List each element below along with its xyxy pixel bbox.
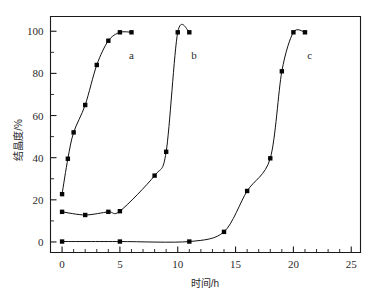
x-tick-label: 15 [230, 258, 242, 270]
y-tick-label: 0 [38, 236, 44, 248]
x-axis-ticks [62, 247, 351, 253]
x-axis-title: 时间/h [191, 277, 219, 289]
chart-plot-area: 0510152025 020406080100 abc 时间/h 结晶度/% [0, 0, 380, 301]
curve-b [62, 24, 189, 215]
data-point-b [83, 213, 87, 217]
y-tick-label: 80 [33, 67, 45, 79]
data-markers [60, 30, 307, 244]
x-axis-tick-labels: 0510152025 [59, 258, 357, 270]
series-label-b: b [191, 49, 197, 61]
y-tick-label: 100 [27, 25, 44, 37]
x-tick-label: 25 [346, 258, 358, 270]
data-point-c [245, 189, 249, 193]
data-point-a [66, 157, 70, 161]
x-tick-label: 5 [117, 258, 123, 270]
data-point-a [60, 192, 64, 196]
series-label-a: a [129, 49, 134, 61]
data-point-c [280, 69, 284, 73]
plot-border [51, 17, 361, 253]
data-point-c [291, 30, 295, 34]
data-point-a [129, 30, 133, 34]
data-curves [62, 24, 305, 242]
data-point-c [268, 156, 272, 160]
data-point-c [222, 230, 226, 234]
y-axis-ticks [51, 31, 57, 242]
data-point-c [187, 239, 191, 243]
data-point-b [106, 210, 110, 214]
x-tick-label: 10 [172, 258, 184, 270]
y-tick-label: 60 [33, 110, 45, 122]
data-point-a [83, 103, 87, 107]
data-point-a [106, 39, 110, 43]
data-point-c [118, 239, 122, 243]
data-point-b [187, 30, 191, 34]
curve-a [62, 32, 131, 194]
series-label-c: c [307, 49, 312, 61]
chart-figure: 0510152025 020406080100 abc 时间/h 结晶度/% [0, 0, 380, 301]
x-tick-label: 20 [288, 258, 300, 270]
data-point-a [95, 63, 99, 67]
axis-frame [51, 17, 361, 253]
data-point-b [164, 150, 168, 154]
data-point-a [71, 130, 75, 134]
data-point-b [118, 209, 122, 213]
data-point-c [60, 239, 64, 243]
y-tick-label: 40 [33, 152, 45, 164]
x-tick-label: 0 [59, 258, 65, 270]
y-tick-label: 20 [33, 194, 45, 206]
data-point-b [60, 210, 64, 214]
y-axis-title: 结晶度/% [12, 119, 24, 161]
data-point-a [118, 30, 122, 34]
data-point-c [303, 30, 307, 34]
data-point-b [152, 173, 156, 177]
data-point-b [176, 30, 180, 34]
y-axis-tick-labels: 020406080100 [27, 25, 44, 248]
